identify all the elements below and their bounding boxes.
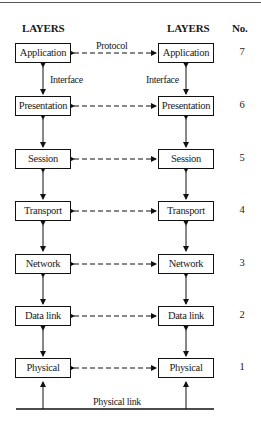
left-layer-physical: Physical: [15, 358, 71, 378]
left-layer-presentation: Presentation: [15, 96, 71, 116]
layer-number-1: 1: [236, 361, 248, 372]
layer-number-4: 4: [236, 204, 248, 215]
right-layer-session: Session: [158, 149, 214, 169]
left-layer-session: Session: [15, 149, 71, 169]
right-layer-presentation: Presentation: [158, 96, 214, 116]
layer-number-3: 3: [236, 257, 248, 268]
right-layer-data-link: Data link: [158, 306, 214, 326]
interface-label-left: Interface: [50, 74, 83, 85]
left-layer-application: Application: [15, 43, 71, 63]
physical-link-label: Physical link: [93, 396, 141, 407]
layer-number-2: 2: [236, 309, 248, 320]
right-layer-physical: Physical: [158, 358, 214, 378]
layer-number-6: 6: [236, 99, 248, 110]
right-layer-transport: Transport: [158, 201, 214, 221]
protocol-label: Protocol: [96, 40, 128, 51]
layer-number-5: 5: [236, 152, 248, 163]
right-layer-network: Network: [158, 254, 214, 274]
left-layer-data-link: Data link: [15, 306, 71, 326]
left-layer-transport: Transport: [15, 201, 71, 221]
right-layer-application: Application: [158, 43, 214, 63]
interface-label-right: Interface: [146, 74, 179, 85]
left-layer-network: Network: [15, 254, 71, 274]
layer-number-7: 7: [236, 46, 248, 57]
